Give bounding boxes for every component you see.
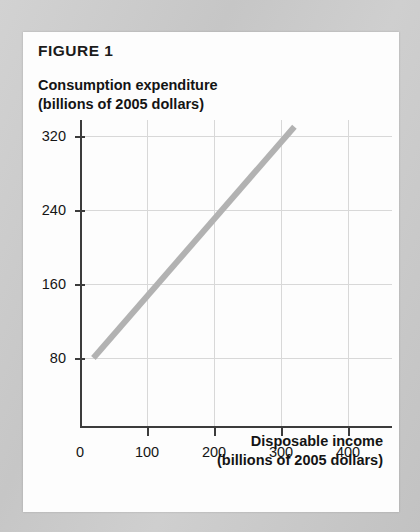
tick-y-320 bbox=[75, 136, 85, 138]
gridline-horizontal-80 bbox=[80, 358, 392, 359]
consumption-function-line bbox=[93, 127, 294, 358]
gridline-horizontal-240 bbox=[80, 210, 392, 211]
gridline-horizontal-160 bbox=[80, 284, 392, 285]
x-tick-label-0: 0 bbox=[76, 444, 84, 460]
tick-y-160 bbox=[75, 284, 85, 286]
y-tick-label-160: 160 bbox=[23, 276, 66, 292]
tick-x-100 bbox=[147, 426, 149, 436]
gridline-vertical-300 bbox=[281, 120, 282, 426]
gridline-vertical-200 bbox=[214, 120, 215, 426]
gridline-vertical-400 bbox=[348, 120, 349, 426]
x-axis-title-line2: (billions of 2005 dollars) bbox=[217, 451, 383, 470]
gridline-horizontal-320 bbox=[80, 136, 392, 137]
x-axis-title-line1: Disposable income bbox=[251, 433, 383, 449]
x-axis-line bbox=[80, 426, 392, 428]
y-tick-label-80: 80 bbox=[23, 350, 66, 366]
y-tick-label-320: 320 bbox=[23, 128, 66, 144]
tick-x-200 bbox=[214, 426, 216, 436]
x-tick-label-100: 100 bbox=[135, 444, 159, 460]
y-tick-label-240: 240 bbox=[23, 202, 66, 218]
tick-y-80 bbox=[75, 358, 85, 360]
y-axis-line bbox=[80, 120, 82, 426]
figure-card: FIGURE 1 Consumption expenditure (billio… bbox=[23, 32, 399, 512]
tick-y-240 bbox=[75, 210, 85, 212]
x-axis-title: Disposable income (billions of 2005 doll… bbox=[217, 432, 383, 470]
gridline-vertical-100 bbox=[147, 120, 148, 426]
